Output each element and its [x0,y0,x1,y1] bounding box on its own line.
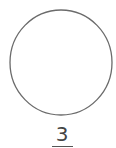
circle-label: 3 [48,124,76,144]
circle-shape [9,9,113,116]
label-underline [52,146,73,147]
